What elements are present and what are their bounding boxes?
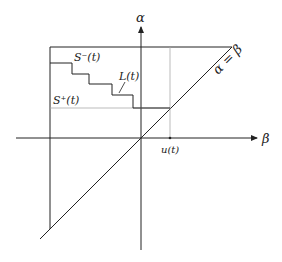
- l-leader-line: [119, 82, 125, 93]
- beta-axis-label: β: [261, 131, 270, 146]
- l-label: L(t): [118, 70, 139, 83]
- alpha-axis-label: α: [136, 10, 145, 25]
- u-tick-dot: [169, 137, 172, 140]
- u-label: u(t): [161, 144, 179, 155]
- s-plus-label: S⁺(t): [53, 94, 79, 107]
- preisach-diagram: α β S⁻(t) S⁺(t) L(t) u(t) α = β: [0, 0, 282, 262]
- diagram-svg: α β S⁻(t) S⁺(t) L(t) u(t) α = β: [0, 0, 282, 262]
- s-minus-label: S⁻(t): [74, 51, 100, 64]
